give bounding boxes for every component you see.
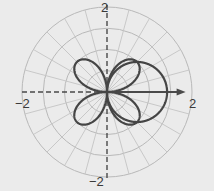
grid-ray bbox=[107, 18, 150, 92]
grid-ray bbox=[107, 92, 181, 135]
polar-chart: 2 −2 −2 2 bbox=[0, 0, 214, 191]
grid-ray bbox=[107, 92, 150, 166]
grid-ray bbox=[65, 18, 108, 92]
grid-ray bbox=[107, 50, 181, 93]
grid-ray bbox=[85, 10, 107, 92]
tick-label-right: 2 bbox=[189, 96, 196, 111]
arrow-right-icon bbox=[177, 89, 186, 96]
grid-ray bbox=[33, 92, 107, 135]
grid-ray bbox=[85, 92, 107, 174]
grid-ray bbox=[65, 92, 108, 166]
grid-ray bbox=[25, 92, 107, 114]
grid-ray bbox=[25, 70, 107, 92]
tick-label-bottom: −2 bbox=[89, 174, 104, 189]
grid-ray bbox=[33, 50, 107, 93]
tick-label-left: −2 bbox=[15, 96, 30, 111]
tick-label-top: 2 bbox=[101, 0, 108, 15]
